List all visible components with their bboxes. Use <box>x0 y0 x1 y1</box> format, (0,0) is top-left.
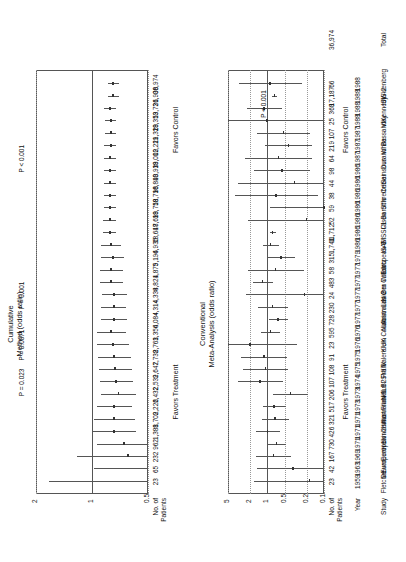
conventional-point-estimate <box>323 206 325 209</box>
conventional-point-estimate <box>275 194 277 197</box>
cumulative-title-line2: Method (odds ratio) <box>15 204 24 444</box>
conventional-ci-bar <box>254 481 324 482</box>
cumulative-point-estimate <box>113 293 115 296</box>
cumulative-pvalue-annotation: P = 0.023 <box>18 369 25 396</box>
conventional-patients-value: 42 <box>328 466 335 473</box>
conventional-point-estimate <box>283 131 285 134</box>
conventional-gridline <box>228 70 229 494</box>
study-year-value: 1971 <box>354 425 361 439</box>
study-year-value: 1987 <box>354 152 361 166</box>
study-year-value: 1976 <box>354 338 361 352</box>
conventional-patients-value: 11,712 <box>328 224 335 243</box>
conventional-point-estimate <box>281 169 283 172</box>
cumulative-pvalue-annotation: P = 0.0071 <box>18 330 25 361</box>
conventional-point-estimate <box>272 231 274 234</box>
conventional-patients-value: 64 <box>328 155 335 162</box>
conventional-patients-value: 167 <box>328 452 335 463</box>
conventional-ci-bar <box>238 183 324 184</box>
conventional-point-estimate <box>277 318 279 321</box>
cumulative-point-estimate <box>109 194 111 197</box>
conventional-patients-value: 23 <box>328 478 335 485</box>
study-year-value: 1986 <box>354 177 361 191</box>
conventional-patients-value: 730 <box>328 439 335 450</box>
conventional-point-estimate <box>259 380 261 383</box>
conventional-favors-treatment: Favors Treatment <box>342 365 349 420</box>
study-year-value: 1977 <box>354 263 361 277</box>
cumulative-point-estimate <box>112 256 114 259</box>
conventional-overall-pvalue: P < 0.001 <box>260 90 267 117</box>
conventional-patients-value: 230 <box>328 303 335 314</box>
conventional-point-estimate <box>276 442 278 445</box>
conventional-point-estimate <box>274 417 276 420</box>
conventional-patients-header: No. of Patients <box>328 498 344 556</box>
cumulative-point-estimate <box>109 107 111 110</box>
cumulative-point-estimate <box>118 392 120 395</box>
conventional-gridline <box>324 70 325 494</box>
year-header: Year <box>354 498 362 556</box>
conv-hdr-l1: No. of <box>328 498 336 556</box>
conventional-patients-value: 483 <box>328 278 335 289</box>
cumulative-point-estimate <box>110 330 112 333</box>
conventional-point-estimate <box>306 218 308 221</box>
cumulative-ci-bar <box>94 468 148 469</box>
conventional-patients-value: 315 <box>328 253 335 264</box>
cumulative-patients-value: 23 <box>152 478 159 485</box>
cumulative-favors-control: Favors Control <box>172 107 179 153</box>
cumulative-point-estimate <box>110 268 112 271</box>
conventional-point-estimate <box>263 355 265 358</box>
cumulative-point-estimate <box>127 454 129 457</box>
cum-hdr-l2: Patients <box>160 498 168 556</box>
study-year-value: 1971 <box>354 437 361 451</box>
conventional-point-estimate <box>273 454 275 457</box>
study-year-value: 1976 <box>354 326 361 340</box>
conventional-patients-value: 321 <box>328 414 335 425</box>
cumulative-point-estimate <box>110 119 112 122</box>
conventional-patients-value: 107 <box>328 129 335 140</box>
conventional-patients-value: 17,187 <box>328 87 335 107</box>
conv-hdr-l2: Patients <box>336 498 344 556</box>
cumulative-panel: Cumulative Method (odds ratio) No. of Pa… <box>0 0 190 562</box>
conventional-point-estimate <box>275 268 277 271</box>
study-name-value: Wisenberg <box>380 69 387 100</box>
cumulative-ci-bar <box>49 481 148 482</box>
conventional-ci-bar <box>248 220 324 221</box>
cumulative-point-estimate <box>110 243 112 246</box>
conventional-point-estimate <box>269 82 271 85</box>
cumulative-point-estimate <box>115 380 117 383</box>
cumulative-point-estimate <box>109 156 111 159</box>
study-year-value: 1973 <box>354 388 361 402</box>
cumulative-point-estimate <box>113 417 115 420</box>
cumulative-ci-bar <box>77 456 148 457</box>
study-year-value: 1969 <box>354 450 361 464</box>
cum-hdr-l1: No. of <box>152 498 160 556</box>
cumulative-point-estimate <box>109 206 111 209</box>
conventional-patients-value: 98 <box>328 168 335 175</box>
cumulative-patients-value: 36,974 <box>152 74 159 94</box>
study-year-value: 1986 <box>354 164 361 178</box>
conventional-patients-value: 206 <box>328 389 335 400</box>
conventional-patients-value: 24 <box>328 292 335 299</box>
cumulative-point-estimate <box>123 442 125 445</box>
cumulative-point-estimate <box>114 367 116 370</box>
conventional-point-estimate <box>266 119 268 122</box>
conventional-point-estimate <box>304 293 306 296</box>
cumulative-patients-value: 65 <box>152 466 159 473</box>
study-year-value: 1963 <box>354 462 361 476</box>
study-year-value: 1977 <box>354 313 361 327</box>
conventional-patients-value: 25 <box>328 118 335 125</box>
cumulative-point-estimate <box>112 82 114 85</box>
conventional-point-estimate <box>272 305 274 308</box>
conventional-patients-value: 38 <box>328 192 335 199</box>
conventional-favors-control: Favors Control <box>342 107 349 153</box>
conventional-ci-bar <box>270 207 324 208</box>
study-year-value: 1975 <box>354 363 361 377</box>
cumulative-patients-value: 962 <box>152 439 159 450</box>
study-year-value: 1987 <box>354 127 361 141</box>
study-year-value: 1977 <box>354 288 361 302</box>
conventional-point-estimate <box>288 144 290 147</box>
study-header: Study <box>380 498 388 556</box>
conventional-point-estimate <box>270 330 272 333</box>
cumulative-point-estimate <box>113 355 115 358</box>
cumulative-point-estimate <box>109 218 111 221</box>
figure-stage: Cumulative Method (odds ratio) No. of Pa… <box>0 0 406 562</box>
